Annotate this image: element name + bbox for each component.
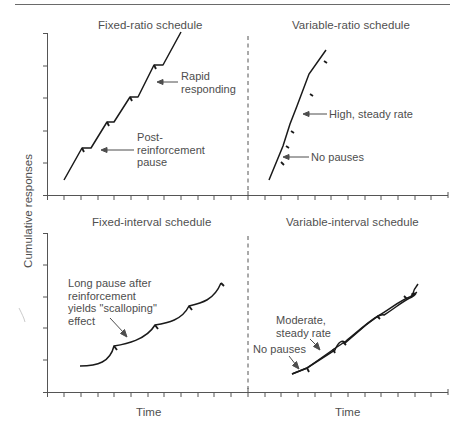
variable-interval-title: Variable-interval schedule (286, 216, 419, 229)
variable-interval-annotation-rate: Moderate, steady rate (276, 314, 331, 339)
x-axis-label-left: Time (136, 406, 161, 419)
fixed-ratio-annotation-rapid: Rapid responding (181, 70, 236, 95)
variable-ratio-annotation-nopause: No pauses (311, 151, 364, 164)
fixed-interval-title: Fixed-interval schedule (92, 216, 211, 229)
margin-mark (19, 308, 25, 322)
fixed-interval-annotation: Long pause after reinforcement yields "s… (68, 277, 157, 327)
y-axis-label: Cumulative responses (22, 151, 34, 271)
fixed-ratio-title: Fixed-ratio schedule (98, 19, 203, 32)
variable-interval-annotation-nopause: No pauses (253, 343, 306, 356)
variable-ratio-title: Variable-ratio schedule (292, 19, 410, 32)
reinforcement-schedules-figure: Fixed-ratio schedule Variable-ratio sche… (0, 0, 464, 435)
fixed-ratio-annotation-pause: Post- reinforcement pause (137, 131, 205, 169)
variable-ratio-annotation-rate: High, steady rate (329, 108, 413, 121)
x-axis-label-right: Time (335, 406, 360, 419)
